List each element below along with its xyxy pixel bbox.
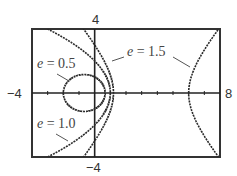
label-e-0-5: e = 0.5	[37, 57, 76, 71]
leader-line-e05	[57, 74, 69, 81]
curve-hyperbola	[189, 21, 225, 93]
leader-line-e15b	[112, 57, 124, 61]
x-min-label: −4	[7, 87, 22, 100]
leader-line-e10	[56, 134, 68, 141]
label-e-1-5: e = 1.5	[127, 45, 166, 59]
leader-line-e15	[173, 57, 190, 67]
polar-conics-plot	[0, 0, 237, 176]
leader-lines	[56, 57, 190, 141]
label-eq: = 0.5	[43, 56, 75, 71]
label-eq: = 1.0	[43, 116, 75, 131]
label-e-1-0: e = 1.0	[37, 117, 76, 131]
label-eq: = 1.5	[133, 44, 165, 59]
curve-hyperbola	[189, 93, 225, 165]
y-max-label: 4	[92, 13, 99, 26]
x-max-label: 8	[225, 87, 232, 100]
y-min-label: −4	[86, 161, 101, 174]
